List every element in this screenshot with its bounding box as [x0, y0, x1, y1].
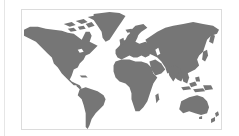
region-caribbean[interactable]	[80, 75, 88, 77]
region-greenland[interactable]	[94, 12, 126, 42]
region-africa[interactable]	[114, 60, 158, 112]
region-new-zealand[interactable]	[211, 111, 219, 123]
world-map[interactable]	[22, 10, 221, 129]
world-map-frame[interactable]	[21, 9, 222, 130]
region-scandinavia[interactable]	[129, 24, 147, 38]
region-south-america[interactable]	[78, 87, 106, 129]
region-australia[interactable]	[179, 95, 209, 115]
region-tasmania[interactable]	[199, 116, 202, 119]
region-madagascar[interactable]	[155, 93, 159, 103]
map-panel	[0, 0, 239, 136]
region-central-america[interactable]	[76, 83, 82, 89]
side-divider	[4, 0, 5, 136]
